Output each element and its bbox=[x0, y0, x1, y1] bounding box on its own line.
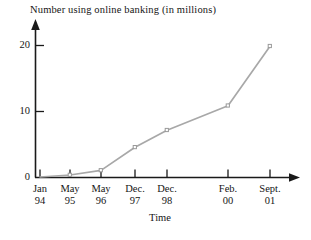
online-banking-line-chart: Number using online banking (in millions… bbox=[0, 0, 311, 240]
data-series-line bbox=[40, 46, 270, 177]
y-axis bbox=[31, 19, 40, 178]
x-tick-label-sept-01: Sept. 01 bbox=[249, 183, 291, 207]
data-point-markers bbox=[68, 44, 271, 176]
x-tick-label-dec-98: Dec. 98 bbox=[146, 183, 188, 207]
x-tick-label-dec-98-year: 98 bbox=[146, 195, 188, 207]
x-tick-label-feb-00-month: Feb. bbox=[207, 183, 249, 195]
x-tick-label-feb-00: Feb. 00 bbox=[207, 183, 249, 207]
y-tick-label-10: 10 bbox=[8, 105, 30, 116]
y-axis-ticks bbox=[36, 46, 45, 112]
x-tick-label-sept-01-month: Sept. bbox=[249, 183, 291, 195]
x-axis-title: Time bbox=[130, 212, 190, 223]
y-tick-label-0: 0 bbox=[8, 171, 30, 182]
y-tick-label-20: 20 bbox=[8, 39, 30, 50]
x-tick-label-sept-01-year: 01 bbox=[249, 195, 291, 207]
x-tick-label-feb-00-year: 00 bbox=[207, 195, 249, 207]
x-tick-label-dec-98-month: Dec. bbox=[146, 183, 188, 195]
